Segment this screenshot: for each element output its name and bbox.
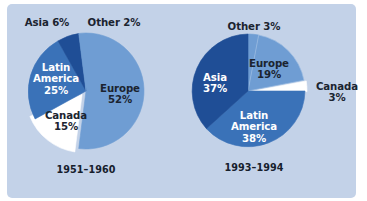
- figure-root: Europe 52% Canada 15% Latin America 25% …: [0, 0, 367, 201]
- label-canada-right-name: Canada: [316, 81, 358, 92]
- label-europe-right-name: Europe: [249, 58, 289, 69]
- label-canada-right-percent: 3%: [328, 92, 345, 103]
- label-other-right: Other 3%: [222, 21, 286, 32]
- label-asia-right-percent: 37%: [203, 83, 227, 94]
- label-europe-right: Europe 19%: [240, 58, 298, 81]
- label-latin-america-right-line1: Latin: [240, 110, 268, 121]
- label-asia-right-name: Asia: [203, 72, 227, 83]
- label-latin-america-right-line2: America: [231, 121, 277, 132]
- label-canada-right: Canada 3%: [310, 81, 364, 104]
- label-asia-right: Asia 37%: [190, 72, 240, 95]
- label-latin-america-right-percent: 38%: [242, 133, 266, 144]
- pie-chart-1993-1994: Other 3% Europe 19% Canada 3% Latin Amer…: [0, 0, 367, 201]
- label-latin-america-right: Latin America 38%: [222, 110, 286, 144]
- label-europe-right-percent: 19%: [257, 69, 281, 80]
- caption-right: 1993–1994: [211, 162, 297, 173]
